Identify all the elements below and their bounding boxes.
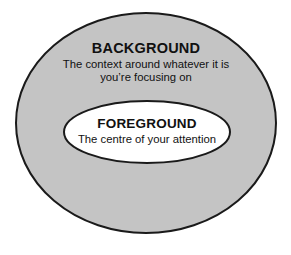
background-heading: BACKGROUND [26,40,266,57]
foreground-label-group: FOREGROUND The centre of your attention [64,116,230,146]
background-label-group: BACKGROUND The context around whatever i… [26,40,266,85]
background-caption-line-2: you’re focusing on [26,71,266,84]
foreground-caption-line-1: The centre of your attention [64,133,230,146]
background-caption-line-1: The context around whatever it is [26,58,266,71]
diagram-canvas: BACKGROUND The context around whatever i… [0,0,291,255]
foreground-heading: FOREGROUND [64,116,230,132]
